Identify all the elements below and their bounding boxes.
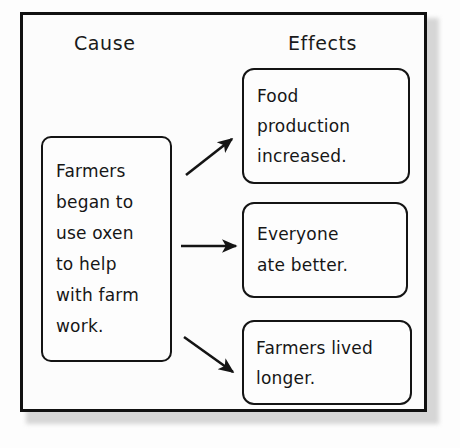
cause-box: Farmers began to use oxen to help with f… [41,136,172,362]
effect-1-text-line: increased. [244,141,408,171]
effect-box-1: Food production increased. [242,68,410,184]
effect-1-text-line: Food [244,81,408,111]
cause-text-line: began to [43,187,170,218]
effect-box-2: Everyone ate better. [242,202,408,298]
column-header-effects: Effects [288,32,357,54]
cause-text-line: to help [43,249,170,280]
cause-text-line: work. [43,311,170,342]
effect-box-3: Farmers lived longer. [242,320,412,405]
cause-text-line: Farmers [43,156,170,187]
cause-text-line: with farm [43,280,170,311]
column-header-cause: Cause [74,32,136,54]
cause-text-line: use oxen [43,218,170,249]
effect-1-text-line: production [244,111,408,141]
effect-2-text-line: ate better. [244,250,406,281]
effect-3-text-line: longer. [244,363,410,393]
cause-and-effect-worksheet: Cause Effects Farmers began to use oxen … [0,0,460,448]
effect-3-text-line: Farmers lived [244,333,410,363]
effect-2-text-line: Everyone [244,219,406,250]
